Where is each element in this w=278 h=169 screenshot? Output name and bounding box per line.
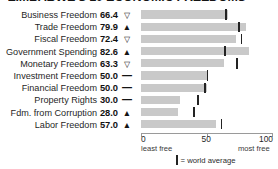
chart-row: Property Rights30.0— [0,94,278,106]
row-value: 82.6 [97,46,118,58]
value-bar [141,96,180,104]
world-average-tick [241,34,243,44]
world-average-tick [197,95,199,105]
row-value: 50.0 [97,82,118,94]
row-label: Property Rights [34,94,97,106]
chart-row: Investment Freedom50.0— [0,70,278,82]
axis-tick-label: 0 [141,134,146,144]
chart-row: Government Spending82.6▲ [0,46,278,58]
trend-up-triangle-filled-icon: ▲ [121,119,133,131]
chart-title: ZIMBABWE'S 10 ECONOMIC FREEDOMS [8,0,270,4]
row-value: 57.0 [97,119,118,131]
world-average-tick [224,46,226,56]
value-bar [141,71,207,79]
trend-dash-icon: — [121,70,133,82]
row-value: 50.0 [97,70,118,82]
world-average-marker-icon [176,155,178,165]
value-bar [141,108,178,116]
value-bar [141,84,207,92]
row-plot [141,9,272,21]
trend-down-triangle-hollow-icon: ▽ [121,58,133,70]
chart-row: Monetary Freedom63.3▽ [0,58,278,70]
trend-down-triangle-hollow-icon: ▽ [121,9,133,21]
row-label: Investment Freedom [14,70,97,82]
row-value: 79.9 [97,21,118,33]
chart-legend: = world average [176,154,236,166]
row-label: Labor Freedom [35,119,97,131]
row-plot [141,70,272,82]
trend-dash-icon: — [121,82,133,94]
row-label: Fiscal Freedom [34,33,97,45]
world-average-tick [193,107,195,117]
chart-row: Fiscal Freedom72.4▽ [0,33,278,45]
axis-least-free-caption: least free [141,144,172,153]
row-label: Fdm. from Corruption [11,107,97,119]
world-average-tick [225,9,227,19]
chart-rows: Business Freedom66.4▽Trade Freedom79.9▲F… [0,9,278,131]
row-label: Government Spending [6,46,97,58]
value-bar [141,47,249,55]
world-average-tick [238,22,240,32]
row-value: 66.4 [97,9,118,21]
world-average-tick [236,58,238,68]
row-value: 30.0 [97,94,118,106]
world-average-tick [221,119,223,129]
row-plot [141,119,272,131]
row-value: 63.3 [97,58,118,70]
row-plot [141,33,272,45]
axis-tick-label: 50 [202,134,211,144]
economic-freedoms-chart: ZIMBABWE'S 10 ECONOMIC FREEDOMS Business… [0,0,278,169]
row-plot [141,107,272,119]
value-bar [141,120,216,128]
world-average-tick [204,83,206,93]
row-label: Business Freedom [21,9,97,21]
trend-dash-icon: — [121,94,133,106]
trend-up-triangle-filled-icon: ▲ [121,46,133,58]
row-plot [141,58,272,70]
chart-row: Financial Freedom50.0— [0,82,278,94]
row-plot [141,46,272,58]
row-label: Monetary Freedom [20,58,97,70]
row-label: Trade Freedom [35,21,97,33]
value-bar [141,23,246,31]
chart-row: Fdm. from Corruption28.0▲ [0,107,278,119]
row-label: Financial Freedom [22,82,97,94]
trend-up-triangle-filled-icon: ▲ [121,21,133,33]
axis-tick-label: 100 [259,134,273,144]
chart-row: Trade Freedom79.9▲ [0,21,278,33]
value-bar [141,59,224,67]
row-plot [141,94,272,106]
value-bar [141,10,228,18]
row-plot [141,82,272,94]
world-average-tick [207,70,209,80]
chart-row: Labor Freedom57.0▲ [0,119,278,131]
legend-label: = world average [181,156,236,165]
row-plot [141,21,272,33]
chart-row: Business Freedom66.4▽ [0,9,278,21]
trend-down-triangle-hollow-icon: ▽ [121,33,133,45]
row-value: 28.0 [97,107,118,119]
trend-up-triangle-filled-icon: ▲ [121,107,133,119]
value-bar [141,35,236,43]
axis-most-free-caption: most free [238,144,270,153]
row-value: 72.4 [97,33,118,45]
